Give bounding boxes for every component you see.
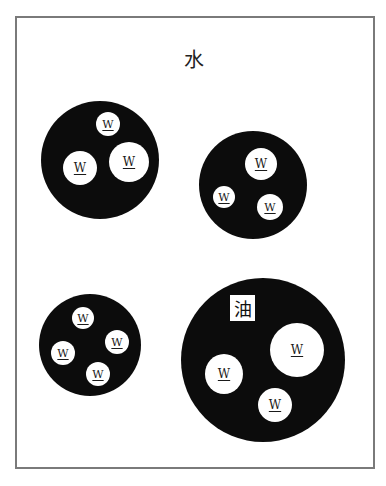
droplet-label: W (77, 313, 88, 324)
droplet-label: W (218, 368, 230, 380)
droplet-label: W (123, 156, 135, 168)
water-droplet: W (109, 142, 149, 182)
droplet-label: W (102, 119, 113, 130)
droplet-label: W (57, 348, 68, 359)
droplet-label: W (92, 369, 103, 380)
water-droplet: W (245, 148, 277, 180)
droplet-label: W (218, 192, 229, 203)
droplet-label: W (269, 399, 281, 411)
oil-phase-label: 油 (230, 295, 255, 321)
water-droplet: W (96, 112, 120, 136)
water-droplet: W (105, 330, 129, 354)
droplet-label: W (255, 158, 267, 170)
water-droplet: W (86, 362, 110, 386)
water-droplet: W (51, 341, 75, 365)
droplet-label: W (74, 162, 86, 174)
water-phase-label: 水 (180, 44, 208, 73)
oil-globule-top-right (199, 131, 307, 239)
water-droplet: W (205, 354, 243, 394)
water-droplet: W (270, 323, 324, 377)
water-droplet: W (213, 186, 235, 208)
droplet-label: W (264, 202, 275, 213)
water-droplet: W (257, 194, 283, 220)
droplet-label: W (111, 337, 122, 348)
droplet-label: W (291, 344, 303, 356)
water-droplet: W (72, 307, 94, 329)
water-droplet: W (258, 388, 292, 422)
water-droplet: W (63, 151, 97, 185)
